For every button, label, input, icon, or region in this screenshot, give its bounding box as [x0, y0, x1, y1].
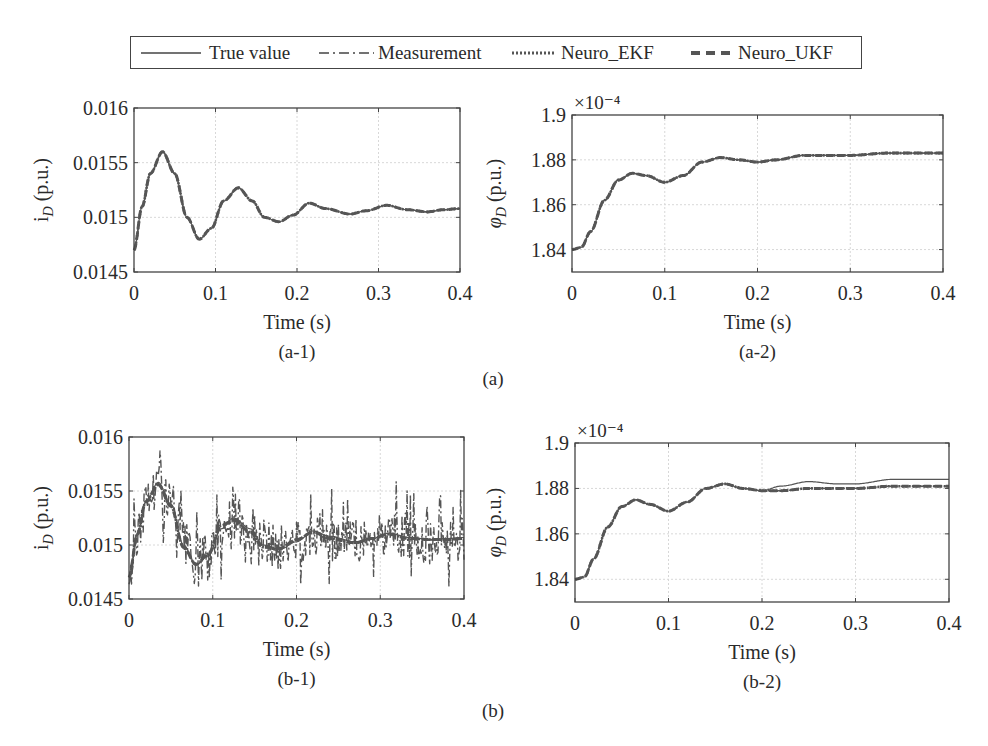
y-axis-label: φD (p.u.): [483, 159, 509, 229]
y-axis-label: iD (p.u.): [30, 486, 56, 550]
x-tick-label: 0.2: [285, 282, 310, 304]
x-tick-label: 0.3: [843, 612, 868, 634]
x-tick-label: 0: [124, 609, 134, 631]
y-tick-label: 1.84: [531, 239, 566, 261]
group-label-a: (a): [482, 368, 503, 390]
y-tick-label: 1.86: [531, 194, 566, 216]
y-tick-label: 1.88: [534, 477, 569, 499]
x-tick-label: 0: [570, 612, 580, 634]
y-tick-label: 0.016: [78, 426, 123, 448]
figure: 00.10.20.30.40.01450.0150.01550.016Time …: [0, 0, 988, 746]
y-tick-label: 1.9: [544, 432, 569, 454]
x-tick-label: 0.2: [284, 609, 309, 631]
x-tick-label: 0.1: [652, 282, 677, 304]
x-tick-label: 0.2: [745, 282, 770, 304]
y-tick-label: 0.016: [83, 97, 128, 119]
y-tick-label: 0.015: [78, 534, 123, 556]
plot-b-1: 00.10.20.30.40.01450.0150.01550.016Time …: [30, 426, 477, 690]
plot-a-1: 00.10.20.30.40.01450.0150.01550.016Time …: [30, 97, 473, 363]
y-axis-label: φD (p.u.): [483, 488, 509, 558]
x-tick-label: 0.4: [452, 609, 477, 631]
axis-exponent: ×10⁻⁴: [574, 92, 621, 113]
y-tick-label: 0.0145: [73, 261, 128, 283]
panel-caption: (a-2): [739, 341, 776, 363]
x-axis-label: Time (s): [728, 641, 796, 664]
y-tick-label: 1.9: [541, 104, 566, 126]
y-tick-label: 0.0155: [73, 152, 128, 174]
x-tick-label: 0: [129, 282, 139, 304]
group-label-b: (b): [482, 700, 504, 722]
x-tick-label: 0: [567, 282, 577, 304]
x-tick-label: 0.1: [656, 612, 681, 634]
x-tick-label: 0.4: [448, 282, 473, 304]
x-tick-label: 0.3: [368, 609, 393, 631]
y-tick-label: 1.88: [531, 149, 566, 171]
x-tick-label: 0.3: [366, 282, 391, 304]
x-axis-label: Time (s): [263, 638, 331, 661]
panel-caption: (a-1): [279, 341, 316, 363]
y-tick-label: 0.0155: [68, 480, 123, 502]
y-axis-label: iD (p.u.): [30, 158, 56, 222]
x-axis-label: Time (s): [724, 311, 792, 334]
plot-b-2: 00.10.20.30.41.841.861.881.9×10⁻⁴Time (s…: [483, 420, 962, 693]
x-tick-label: 0.1: [200, 609, 225, 631]
panel-caption: (b-2): [743, 671, 781, 693]
x-tick-label: 0.3: [838, 282, 863, 304]
x-axis-label: Time (s): [263, 311, 331, 334]
y-tick-label: 0.0145: [68, 588, 123, 610]
x-tick-label: 0.4: [937, 612, 962, 634]
y-tick-label: 1.84: [534, 568, 569, 590]
panel-caption: (b-1): [278, 668, 316, 690]
plot-a-2: 00.10.20.30.41.841.861.881.9×10⁻⁴Time (s…: [483, 92, 956, 363]
axes-box: [575, 443, 949, 602]
axis-exponent: ×10⁻⁴: [577, 420, 624, 441]
y-tick-label: 0.015: [83, 206, 128, 228]
x-tick-label: 0.1: [203, 282, 228, 304]
y-tick-label: 1.86: [534, 523, 569, 545]
x-tick-label: 0.2: [750, 612, 775, 634]
x-tick-label: 0.4: [931, 282, 956, 304]
